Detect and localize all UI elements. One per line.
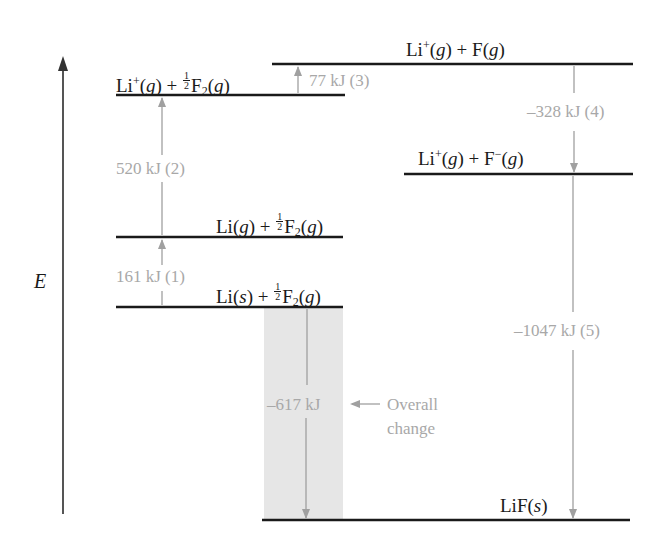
label-li-plus-f: Li+(g) + F(g) [406, 40, 505, 59]
energy-axis-label: E [34, 271, 46, 291]
overall-annotation-line2: change [387, 420, 435, 437]
left-arrowhead-icon [350, 400, 360, 408]
axis-arrowhead-icon [58, 56, 68, 71]
step5-label: –1047 kJ (5) [514, 322, 600, 339]
energy-axis [58, 56, 68, 514]
overall-annotation-line1: Overall [387, 396, 438, 413]
label-li-s-half-f2: Li(s) + 12F2(g) [216, 282, 321, 306]
axis-e-text: E [34, 270, 46, 292]
fraction-half: 12 [183, 71, 190, 90]
fraction-half: 12 [274, 282, 281, 301]
label-li-plus-half-f2: Li+(g) + 12F2(g) [116, 71, 230, 95]
fraction-half: 12 [276, 212, 283, 231]
step1-label: 161 kJ (1) [116, 268, 185, 285]
label-li-g-half-f2: Li(g) + 12F2(g) [216, 212, 323, 236]
step3-label: 77 kJ (3) [309, 72, 369, 89]
label-lif-s: LiF(s) [500, 496, 548, 515]
step4-label: –328 kJ (4) [527, 103, 604, 120]
label-li-plus-f-minus: Li+(g) + F−(g) [418, 149, 524, 168]
overall-value-label: –617 kJ [267, 396, 320, 413]
step2-label: 520 kJ (2) [116, 160, 185, 177]
